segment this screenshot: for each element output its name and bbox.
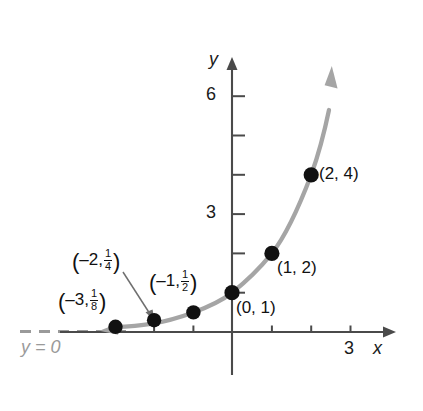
data-points bbox=[108, 167, 319, 334]
point-x-part: –1, bbox=[156, 271, 180, 290]
point-marker bbox=[147, 313, 161, 327]
point-label-one: (1, 2) bbox=[277, 259, 317, 276]
point-x-part: –2, bbox=[79, 250, 103, 269]
point-marker bbox=[304, 167, 319, 182]
y-axis-label: y bbox=[209, 50, 218, 68]
paren-close: ) bbox=[190, 272, 197, 294]
x-tick-label-3: 3 bbox=[344, 339, 354, 357]
point-marker bbox=[186, 305, 200, 319]
point-label-neg3: (–3,18) bbox=[58, 288, 106, 313]
exponential-graph-figure: y x 6 3 3 y = 0 (–3,18) (–2,14) (–1,12) … bbox=[0, 0, 423, 411]
y-axis-ticks bbox=[232, 96, 245, 293]
fraction-one-half: 12 bbox=[181, 269, 189, 293]
fraction-one-fourth: 14 bbox=[104, 248, 112, 272]
point-label-two: (2, 4) bbox=[319, 165, 359, 182]
y-tick-label-3: 3 bbox=[206, 203, 216, 221]
y-tick-label-6: 6 bbox=[206, 85, 216, 103]
paren-close: ) bbox=[113, 251, 120, 273]
paren-close: ) bbox=[99, 291, 106, 313]
fraction-one-eighth: 18 bbox=[90, 288, 98, 312]
exponential-curve bbox=[100, 66, 338, 335]
point-x-part: –3, bbox=[65, 290, 89, 309]
point-marker bbox=[108, 320, 122, 334]
point-label-zero: (0, 1) bbox=[236, 299, 276, 316]
point-label-neg2: (–2,14) bbox=[72, 248, 120, 273]
x-axis-label: x bbox=[373, 339, 382, 357]
point-label-neg1: (–1,12) bbox=[149, 269, 197, 294]
y-axis bbox=[227, 57, 238, 375]
asymptote-label: y = 0 bbox=[21, 338, 61, 356]
